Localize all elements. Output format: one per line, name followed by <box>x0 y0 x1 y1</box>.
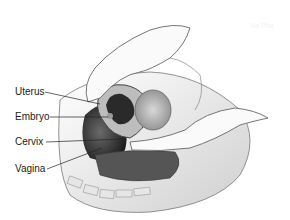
watermark: Na Pha <box>250 22 273 29</box>
label-embryo: Embryo <box>15 111 49 123</box>
label-uterus: Uterus <box>15 86 44 98</box>
label-vagina: Vagina <box>15 163 45 175</box>
bladder-shape <box>135 90 171 130</box>
anatomy-diagram: Uterus Embryo Cervix Vagina Na Pha <box>0 0 290 220</box>
embryo-shape <box>107 113 113 119</box>
rectum-shape <box>95 151 179 181</box>
label-cervix: Cervix <box>15 136 43 148</box>
anatomy-illustration <box>0 0 290 220</box>
